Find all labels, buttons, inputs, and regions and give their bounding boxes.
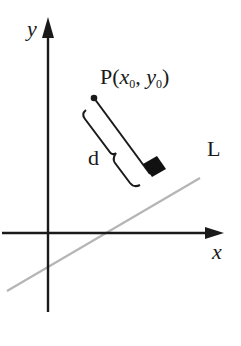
point-name: P: [100, 64, 112, 89]
point-p: [91, 95, 98, 102]
point-p-label: P(x0, y0): [100, 66, 169, 90]
perpendicular-segment: [94, 98, 150, 174]
x-axis-label: x: [212, 241, 222, 263]
coordinate-diagram: [0, 0, 241, 346]
distance-label: d: [88, 147, 99, 169]
point-paren-open: (: [112, 64, 119, 89]
point-paren-close: ): [162, 64, 169, 89]
line-l-label: L: [207, 138, 220, 160]
y-axis-arrow-icon: [42, 17, 54, 38]
line-l: [7, 178, 200, 291]
point-separator: ,: [135, 64, 146, 89]
right-angle-marker-icon: [143, 156, 166, 177]
y-axis-label: y: [27, 18, 37, 40]
point-y-coord: y: [146, 64, 156, 89]
point-x-coord: x: [120, 64, 130, 89]
x-axis-arrow-icon: [205, 227, 224, 239]
